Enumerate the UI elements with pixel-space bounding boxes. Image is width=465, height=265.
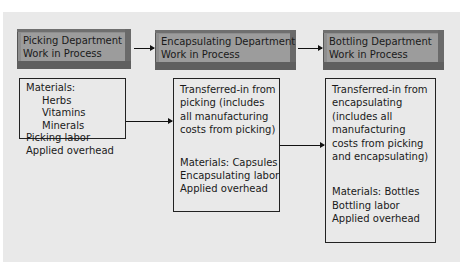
header-title-line: Bottling Department xyxy=(329,35,432,48)
cost-item: Picking labor xyxy=(26,132,119,145)
transferred-in-line: encapsulating xyxy=(332,96,429,109)
cost-item: Applied overhead xyxy=(180,182,273,195)
cost-item: Applied overhead xyxy=(332,212,429,225)
cost-item: Materials: Capsules xyxy=(180,156,273,169)
encapsulating-costs-box: Transferred-in from picking (includes al… xyxy=(173,78,280,212)
arrow-encapsulating-to-bottling-box xyxy=(280,145,324,146)
encapsulating-department-header: Encapsulating Department Work in Process xyxy=(155,30,296,70)
bottling-department-header: Bottling Department Work in Process xyxy=(323,30,444,70)
transferred-in-line: all manufacturing xyxy=(180,110,273,123)
transferred-in-line: picking (includes xyxy=(180,96,273,109)
arrow-picking-to-encapsulating-header xyxy=(134,48,154,49)
header-title-line: Work in Process xyxy=(161,48,295,61)
picking-costs-box: Materials: Herbs Vitamins Minerals Picki… xyxy=(19,78,126,139)
header-title-line: Encapsulating Department xyxy=(161,35,295,48)
transferred-in-line: Transferred-in from xyxy=(332,83,429,96)
bottling-costs-box: Transferred-in from encapsulating (inclu… xyxy=(325,78,436,243)
cost-item: Materials: Bottles xyxy=(332,185,429,198)
arrow-encapsulating-to-bottling-header xyxy=(298,48,322,49)
cost-item: Materials: xyxy=(26,82,119,95)
transferred-in-line: and encapsulating) xyxy=(332,150,429,163)
cost-item: Bottling labor xyxy=(332,199,429,212)
header-title-line: Work in Process xyxy=(23,47,122,60)
picking-department-header: Picking Department Work in Process xyxy=(17,29,131,69)
transferred-in-line: Transferred-in from xyxy=(180,83,273,96)
arrow-picking-to-encapsulating-box xyxy=(126,121,172,122)
transferred-in-line: costs from picking xyxy=(332,137,429,150)
cost-item: Encapsulating labor xyxy=(180,169,273,182)
header-title-line: Work in Process xyxy=(329,48,432,61)
header-title-line: Picking Department xyxy=(23,34,122,47)
transferred-in-line: (includes all xyxy=(332,110,429,123)
transferred-in-line: manufacturing xyxy=(332,123,429,136)
cost-item: Applied overhead xyxy=(26,145,119,158)
cost-item: Herbs xyxy=(26,95,119,108)
transferred-in-line: costs from picking) xyxy=(180,123,273,136)
cost-item: Vitamins xyxy=(26,107,119,120)
cost-item: Minerals xyxy=(26,120,119,133)
